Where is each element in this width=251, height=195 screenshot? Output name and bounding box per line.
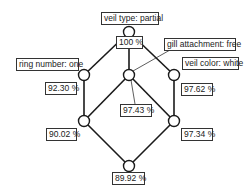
support-label-middle: 97.43 % bbox=[120, 104, 152, 117]
attribute-label-gill-attachment: gill attachment: free bbox=[164, 38, 236, 51]
leader-97-43 bbox=[131, 80, 135, 104]
support-label-left: 92.30 % bbox=[45, 82, 77, 95]
support-label-lower-right: 97.34 % bbox=[181, 128, 213, 141]
node-middle bbox=[124, 70, 135, 81]
node-bottom bbox=[124, 161, 135, 172]
support-label-top: 100 % bbox=[116, 36, 143, 49]
support-label-right: 97.62 % bbox=[181, 83, 213, 96]
attribute-label-ring-number: ring number: one bbox=[16, 58, 79, 71]
node-right bbox=[169, 70, 180, 81]
attribute-label-veil-color: veil color: white bbox=[182, 57, 239, 70]
attribute-label-veil-type: veil type: partial bbox=[101, 12, 159, 25]
node-left bbox=[79, 70, 90, 81]
lattice-diagram bbox=[0, 0, 251, 195]
support-label-bottom: 89.92 % bbox=[112, 172, 145, 185]
node-lower-right bbox=[169, 116, 180, 127]
edge-lowerleft-bottom bbox=[84, 121, 129, 166]
edge-lowerright-bottom bbox=[129, 121, 174, 166]
support-label-lower-left: 90.02 % bbox=[46, 128, 77, 141]
node-lower-left bbox=[79, 116, 90, 127]
